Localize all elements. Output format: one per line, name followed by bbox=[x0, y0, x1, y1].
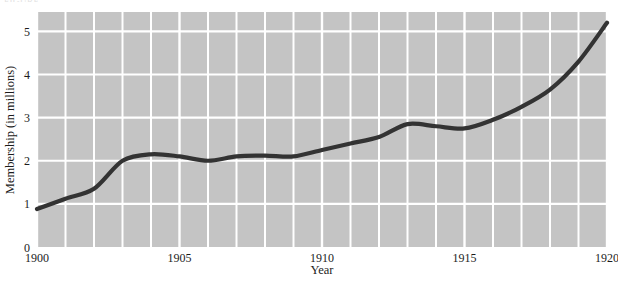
y-axis-tick-labels: 012345 bbox=[24, 25, 30, 255]
x-axis-title: Year bbox=[310, 263, 334, 277]
vertical-gridlines bbox=[37, 12, 607, 247]
y-tick-2: 2 bbox=[24, 154, 30, 168]
y-tick-1: 1 bbox=[24, 197, 30, 211]
x-tick-1920: 1920 bbox=[595, 251, 618, 265]
y-tick-4: 4 bbox=[24, 68, 30, 82]
y-axis-title: Membership (in millions) bbox=[3, 66, 17, 194]
x-tick-1915: 1915 bbox=[453, 251, 477, 265]
y-tick-3: 3 bbox=[24, 111, 30, 125]
y-tick-0: 0 bbox=[24, 241, 30, 255]
figure-container: FIGURE 19001905191019151920 012345 Year … bbox=[0, 0, 618, 282]
y-tick-5: 5 bbox=[24, 25, 30, 39]
line-chart: 19001905191019151920 012345 Year Members… bbox=[0, 0, 618, 282]
x-tick-1905: 1905 bbox=[168, 251, 192, 265]
